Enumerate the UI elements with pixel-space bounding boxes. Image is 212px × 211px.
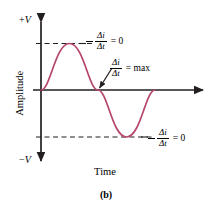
y-axis-positive-label: +V	[19, 15, 31, 25]
annotation-positive-peak: Δi Δt = 0	[86, 31, 123, 52]
annotation-relation: = 0	[173, 133, 185, 143]
annotation-value: 0	[181, 133, 186, 143]
y-axis-title: Amplitude	[15, 57, 26, 129]
annotation-negative-trough: Δi Δt = 0	[148, 128, 185, 149]
delta-ratio-fraction: Δi Δt	[157, 128, 169, 149]
y-axis-negative-label: −V	[19, 155, 31, 165]
delta-ratio-fraction: Δi Δt	[110, 58, 122, 79]
delta-i-numerator: Δi	[95, 31, 107, 41]
delta-i-numerator: Δi	[157, 128, 169, 138]
delta-t-denominator: Δt	[157, 138, 169, 149]
delta-ratio-fraction: Δi Δt	[95, 31, 107, 52]
annotation-relation: = max	[126, 63, 150, 73]
y-axis-negative-symbol: V	[25, 154, 31, 165]
figure-container: +V −V Amplitude Time (b) Δi Δt = 0 Δi Δt…	[0, 0, 212, 211]
delta-t-denominator: Δt	[95, 41, 107, 52]
delta-t-denominator: Δt	[110, 68, 122, 79]
relation-operator: =	[111, 36, 116, 46]
y-axis-positive-symbol: V	[25, 14, 31, 25]
annotation-leader-dash	[148, 138, 155, 139]
delta-i-numerator: Δi	[110, 58, 122, 68]
annotation-value: 0	[119, 36, 124, 46]
annotation-value: max	[134, 63, 150, 73]
figure-caption: (b)	[83, 190, 129, 200]
annotation-leader-dash	[86, 41, 93, 42]
x-axis-title: Time	[78, 167, 132, 178]
annotation-zero-crossing: Δi Δt = max	[110, 58, 150, 79]
relation-operator: =	[126, 63, 131, 73]
relation-operator: =	[173, 133, 178, 143]
annotation-relation: = 0	[111, 36, 123, 46]
